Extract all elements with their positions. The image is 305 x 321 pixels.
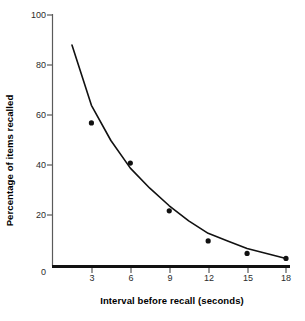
data-point [206, 238, 211, 243]
y-axis-ticks [47, 15, 53, 215]
fitted-decay-curve [72, 45, 286, 258]
data-point [244, 251, 249, 256]
data-point [167, 208, 172, 213]
data-point [89, 120, 94, 125]
data-point-group [89, 120, 289, 261]
data-point [128, 160, 133, 165]
plot-area [0, 0, 305, 321]
x-axis-ticks [92, 268, 286, 273]
forgetting-curve-chart: Percentage of items recalled Interval be… [0, 0, 305, 321]
data-point [283, 256, 288, 261]
